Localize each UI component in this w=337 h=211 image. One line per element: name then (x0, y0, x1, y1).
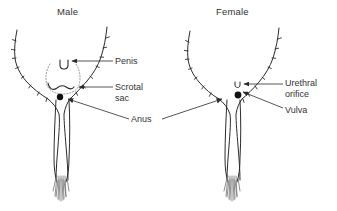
leader-vulva (243, 92, 283, 108)
label-urethral-orifice-line1: Urethral (285, 78, 317, 89)
label-scrotal-sac-line2: sac (115, 93, 143, 104)
anatomy-figure: Male Female Penis Scrotal sac Anus Ureth… (0, 0, 337, 211)
male-left-haunch-outline (15, 30, 48, 99)
male-left-hair-ticks (11, 40, 47, 102)
female-left-haunch-outline (188, 31, 219, 99)
female-left-hair-ticks (184, 41, 219, 103)
female-left-leg-outline (219, 99, 230, 180)
label-scrotal-sac-line1: Scrotal (115, 82, 143, 93)
label-penis: Penis (115, 56, 138, 67)
male-left-leg-outline (48, 99, 59, 180)
male-anus-dot (57, 94, 63, 100)
panel-title-female: Female (216, 6, 249, 17)
male-scrotal-fold-curve (48, 83, 74, 89)
female-vulva-dot (235, 92, 242, 99)
female-figure (184, 28, 281, 201)
male-penis-opening-icon (60, 60, 68, 69)
leader-lines (68, 61, 283, 119)
female-urethral-orifice-icon (235, 82, 240, 88)
label-urethral-orifice-line2: orifice (285, 89, 317, 100)
label-urethral-orifice: Urethral orifice (285, 78, 317, 99)
leader-anus-female (162, 99, 222, 119)
male-right-haunch-outline (70, 27, 107, 99)
female-right-haunch-outline (242, 28, 279, 99)
label-vulva: Vulva (285, 105, 307, 116)
male-figure (11, 27, 109, 201)
label-anus: Anus (131, 114, 152, 125)
panel-title-male: Male (57, 6, 78, 17)
label-scrotal-sac: Scrotal sac (115, 82, 143, 103)
